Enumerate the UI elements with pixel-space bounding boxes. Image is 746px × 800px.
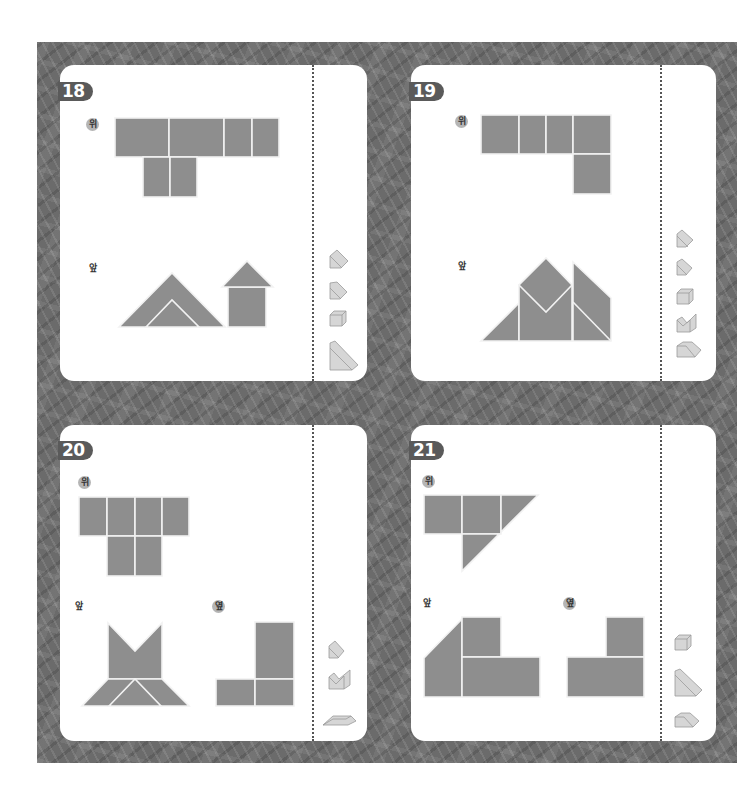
cube-icon: [675, 635, 691, 650]
top-view-19: [481, 115, 611, 194]
top-view-20: [79, 497, 189, 576]
cube-icon: [677, 289, 693, 304]
front-view-21: [424, 617, 540, 697]
puzzle-shapes-layer: [0, 0, 746, 800]
piece-icons-21: [675, 635, 702, 727]
cube-icon: [330, 311, 346, 326]
front-view-18: [119, 261, 273, 327]
top-view-18: [115, 118, 279, 197]
triangular-prism-icon: [677, 230, 693, 247]
large-triangular-prism-icon: [675, 669, 702, 696]
triangular-prism-icon: [330, 282, 347, 299]
triangular-prism-icon: [329, 641, 344, 658]
top-view-21: [424, 495, 538, 571]
side-view-21: [567, 617, 644, 697]
triangular-prism-icon: [677, 259, 692, 275]
large-triangular-prism-icon: [330, 341, 358, 370]
triangular-prism-icon: [330, 250, 348, 268]
piece-icons-18: [330, 250, 358, 370]
trapezoid-prism-icon: [323, 716, 356, 725]
slanted-block-icon: [677, 342, 701, 357]
slanted-block-icon: [675, 713, 699, 727]
piece-icons-20: [323, 641, 356, 725]
front-view-20: [82, 623, 189, 706]
side-view-20: [216, 622, 294, 706]
v-notch-block-icon: [329, 670, 350, 689]
front-view-19: [481, 258, 611, 341]
piece-icons-19: [677, 230, 701, 357]
v-notch-block-icon: [677, 314, 696, 332]
